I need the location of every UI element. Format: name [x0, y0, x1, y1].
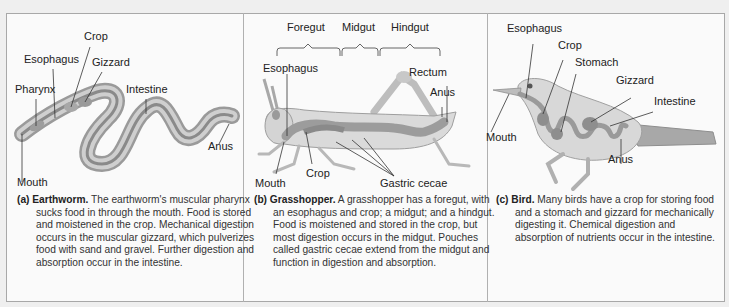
label-mouth: Mouth — [17, 176, 48, 188]
label-crop: Crop — [558, 39, 582, 51]
label-rectum: Rectum — [409, 66, 447, 78]
label-esophagus: Esophagus — [263, 62, 318, 74]
caption-title: Grasshopper. — [270, 194, 336, 205]
label-crop: Crop — [84, 30, 108, 42]
caption-title: Earthworm. — [32, 194, 88, 205]
panel-grasshopper: Foregut Midgut Hindgut Esophagus Rectum … — [244, 14, 487, 301]
caption-text: Many birds have a crop for storing food … — [515, 194, 715, 243]
label-esophagus: Esophagus — [24, 53, 79, 65]
caption-title: Bird. — [511, 194, 534, 205]
label-mouth: Mouth — [486, 131, 517, 143]
label-esophagus: Esophagus — [507, 22, 562, 34]
label-gizzard: Gizzard — [92, 56, 130, 68]
label-gizzard: Gizzard — [616, 74, 654, 86]
grasshopper-illustration — [244, 14, 487, 194]
caption-text: The earthworm's muscular pharynx sucks f… — [36, 194, 254, 268]
label-intestine: Intestine — [654, 95, 696, 107]
earthworm-illustration — [7, 14, 243, 194]
caption-tag: (b) — [254, 194, 267, 205]
label-pharynx: Pharynx — [15, 83, 55, 95]
label-anus: Anus — [430, 86, 455, 98]
label-foregut: Foregut — [287, 21, 325, 33]
label-midgut: Midgut — [342, 21, 375, 33]
caption-grasshopper: (b) Grasshopper. A grasshopper has a for… — [254, 194, 501, 270]
panel-bird: Esophagus Crop Stomach Gizzard Intestine… — [488, 14, 724, 301]
panel-earthworm: Crop Esophagus Gizzard Pharynx Intestine… — [7, 14, 243, 301]
label-anus: Anus — [208, 140, 233, 152]
label-crop: Crop — [306, 167, 330, 179]
caption-earthworm: (a) Earthworm. The earthworm's muscular … — [17, 194, 256, 270]
caption-tag: (a) — [17, 194, 29, 205]
caption-tag: (c) — [496, 194, 508, 205]
label-anus: Anus — [608, 153, 633, 165]
label-hindgut: Hindgut — [391, 21, 429, 33]
label-stomach: Stomach — [575, 56, 618, 68]
label-gastric-cecae: Gastric cecae — [380, 177, 447, 189]
caption-text: A grasshopper has a foregut, with an eso… — [273, 194, 494, 268]
label-intestine: Intestine — [126, 83, 168, 95]
label-mouth: Mouth — [255, 177, 286, 189]
caption-bird: (c) Bird. Many birds have a crop for sto… — [496, 194, 720, 244]
